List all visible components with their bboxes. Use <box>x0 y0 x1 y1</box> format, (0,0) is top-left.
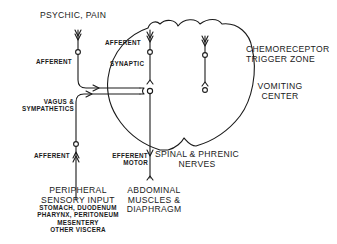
abdominal-line-1: ABDOMINAL <box>124 186 184 195</box>
vc-line-1: VOMITING <box>252 82 308 91</box>
peripheral-item: OTHER VISCERA <box>18 227 138 233</box>
vagus-line-2: SYMPATHETICS <box>17 106 74 112</box>
vc-line-2: CENTER <box>252 92 308 101</box>
synaptic-label: SYNAPTIC <box>110 61 144 67</box>
vagus-label: VAGUS & SYMPATHETICS <box>17 99 74 113</box>
efferent-line-2: MOTOR <box>104 160 148 166</box>
convergence-bracket <box>140 88 144 94</box>
afferent-bottom-label: AFFERENT <box>34 153 70 159</box>
abdominal-line-2: MUSCLES & <box>124 196 184 205</box>
ctz-fork <box>202 82 208 86</box>
spinal-phrenic-nerves-label: SPINAL & PHRENIC NERVES <box>152 150 242 168</box>
peripheral-line-2: SENSORY INPUT <box>18 196 138 205</box>
peripheral-sensory-input-label: PERIPHERAL SENSORY INPUT STOMACH, DUODEN… <box>18 186 138 233</box>
peripheral-line-1: PERIPHERAL <box>18 186 138 195</box>
ctz-line-1: CHEMORECEPTOR <box>246 45 329 54</box>
chemoreceptor-trigger-zone-label: CHEMORECEPTOR TRIGGER ZONE <box>246 45 329 63</box>
efferent-motor-label: EFFERENT MOTOR <box>104 153 148 167</box>
spinal-line-1: SPINAL & PHRENIC <box>152 150 242 159</box>
afferent-top-left-label: AFFERENT <box>36 59 72 65</box>
psychic-afferent-synapse <box>76 50 81 55</box>
psychic-pain-label: PSYCHIC, PAIN <box>40 11 106 20</box>
abdominal-line-3: DIAPHRAGM <box>124 205 184 214</box>
peripheral-item: PHARYNX, PERITONEUM <box>18 212 138 218</box>
spinal-line-2: NERVES <box>152 160 242 169</box>
synaptic-fork <box>147 80 153 84</box>
vomiting-center-node <box>147 88 152 93</box>
vagus-afferent-synapse <box>74 142 79 147</box>
vomiting-center-label: VOMITING CENTER <box>252 82 308 100</box>
ctz-synapse <box>203 53 208 58</box>
inner-afferent-synapse <box>148 50 153 55</box>
abdominal-muscles-diaphragm-label: ABDOMINAL MUSCLES & DIAPHRAGM <box>124 186 184 214</box>
ctz-line-2: TRIGGER ZONE <box>246 55 329 64</box>
ctz-terminal-node <box>203 88 208 93</box>
afferent-inner-label: AFFERENT <box>105 40 141 46</box>
